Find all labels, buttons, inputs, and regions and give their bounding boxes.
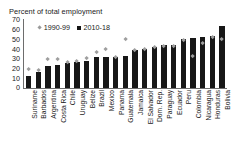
x-axis-label-suriname: Suriname — [24, 90, 34, 144]
bar-group[interactable] — [217, 20, 227, 88]
plot-area — [24, 20, 227, 88]
bar-group[interactable] — [208, 20, 218, 88]
x-axis-label-chile: Chile — [63, 90, 73, 144]
x-axis-label-el-salvador: El Salvador — [140, 90, 150, 144]
chart-title: Percent of total employment — [9, 7, 102, 16]
bar-peru[interactable] — [181, 39, 186, 88]
marker-costa-rica[interactable] — [55, 57, 60, 62]
bar-panama[interactable] — [113, 57, 118, 88]
bar-group[interactable] — [188, 20, 198, 88]
x-axis-label-belize: Belize — [82, 90, 92, 144]
y-axis-tick-40: 40 — [12, 46, 20, 53]
x-axis-label-argentina: Argentina — [43, 90, 53, 144]
bar-group[interactable] — [101, 20, 111, 88]
bar-paraguay[interactable] — [161, 45, 166, 88]
bar-el-salvador[interactable] — [142, 49, 147, 88]
x-axis-label-mexico: Mexico — [101, 90, 111, 144]
bar-group[interactable] — [198, 20, 208, 88]
x-axis-label-dom-rep-: Dom. Rep. — [150, 90, 160, 144]
bar-barbados[interactable] — [36, 72, 41, 88]
x-axis-label-paraguay: Paraguay — [159, 90, 169, 144]
bar-group[interactable] — [92, 20, 102, 88]
bar-chile[interactable] — [65, 63, 70, 88]
bar-brazil[interactable] — [94, 57, 99, 88]
bar-group[interactable] — [150, 20, 160, 88]
marker-argentina[interactable] — [46, 57, 51, 62]
y-axis-tick-50: 50 — [12, 36, 20, 43]
marker-belize[interactable] — [84, 56, 89, 61]
bar-group[interactable] — [130, 20, 140, 88]
bar-belize[interactable] — [84, 61, 89, 88]
bar-costa-rica[interactable] — [55, 65, 60, 88]
bar-group[interactable] — [34, 20, 44, 88]
bar-dom-rep-[interactable] — [152, 47, 157, 88]
bar-suriname[interactable] — [26, 76, 31, 88]
bar-mexico[interactable] — [103, 57, 108, 88]
bar-uruguay[interactable] — [74, 62, 79, 88]
x-axis-label-guatemala: Guatemala — [121, 90, 131, 144]
x-axis-label-nicaragua: Nicaragua — [198, 90, 208, 144]
marker-brazil[interactable] — [94, 50, 99, 55]
x-axis-label-honduras: Honduras — [208, 90, 218, 144]
marker-suriname[interactable] — [26, 67, 31, 72]
y-axis-tick-30: 30 — [12, 55, 20, 62]
bar-bolivia[interactable] — [219, 26, 224, 88]
bar-group[interactable] — [63, 20, 73, 88]
y-axis-tick-60: 60 — [12, 26, 20, 33]
x-axis-label-colombia: Colombia — [188, 90, 198, 144]
x-axis-labels: SurinameBarbadosArgentinaCosta RicaChile… — [24, 90, 227, 146]
y-axis-tick-0: 0 — [16, 84, 20, 91]
x-axis-label-barbados: Barbados — [34, 90, 44, 144]
bar-group[interactable] — [111, 20, 121, 88]
bar-group[interactable] — [53, 20, 63, 88]
bar-guatemala[interactable] — [123, 56, 128, 88]
y-axis-tick-20: 20 — [12, 65, 20, 72]
y-axis-tick-10: 10 — [12, 75, 20, 82]
x-axis-label-brazil: Brazil — [92, 90, 102, 144]
bar-group[interactable] — [121, 20, 131, 88]
chart-container: Percent of total employment 706050403020… — [0, 0, 231, 146]
x-axis-label-jamaica: Jamaica — [130, 90, 140, 144]
bar-group[interactable] — [72, 20, 82, 88]
y-axis: 706050403020100 — [0, 20, 22, 88]
bar-group[interactable] — [169, 20, 179, 88]
bar-group[interactable] — [140, 20, 150, 88]
bar-jamaica[interactable] — [132, 50, 137, 88]
bar-group[interactable] — [179, 20, 189, 88]
bar-colombia[interactable] — [190, 38, 195, 88]
bar-ecuador[interactable] — [171, 45, 176, 88]
x-axis-label-bolivia: Bolivia — [217, 90, 227, 144]
y-axis-tick-70: 70 — [12, 16, 20, 23]
x-axis-label-costa-rica: Costa Rica — [53, 90, 63, 144]
bar-group[interactable] — [159, 20, 169, 88]
marker-mexico[interactable] — [104, 47, 109, 52]
x-axis-label-peru: Peru — [179, 90, 189, 144]
x-axis-label-text: Bolivia — [226, 90, 231, 110]
bar-group[interactable] — [82, 20, 92, 88]
marker-guatemala[interactable] — [123, 37, 128, 42]
x-axis-label-panama: Panama — [111, 90, 121, 144]
x-axis-label-uruguay: Uruguay — [72, 90, 82, 144]
bar-argentina[interactable] — [45, 66, 50, 88]
bar-group[interactable] — [24, 20, 34, 88]
bar-group[interactable] — [43, 20, 53, 88]
x-axis-label-ecuador: Ecuador — [169, 90, 179, 144]
bar-honduras[interactable] — [210, 36, 215, 88]
